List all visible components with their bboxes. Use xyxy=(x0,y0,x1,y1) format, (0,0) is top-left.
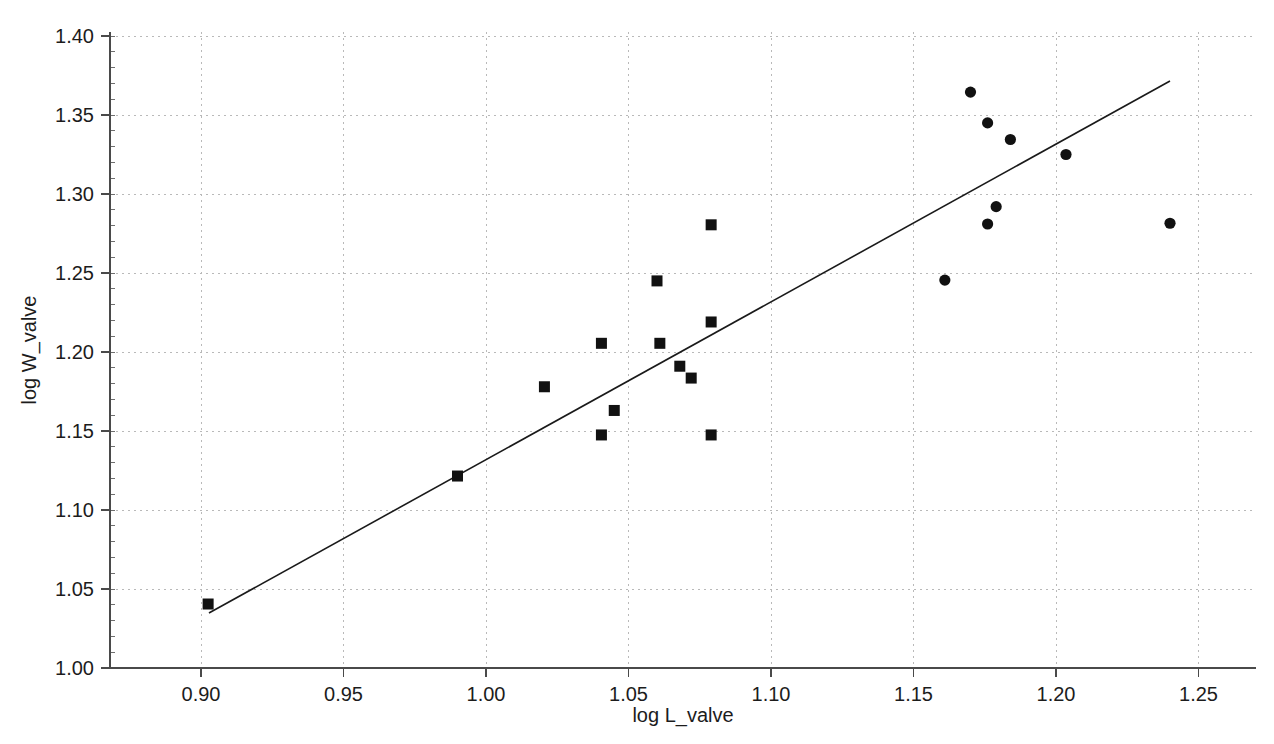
figure-background xyxy=(0,0,1274,744)
y-tick-label: 1.30 xyxy=(55,183,94,205)
x-tick-label: 1.25 xyxy=(1179,683,1218,705)
y-tick-label: 1.00 xyxy=(55,657,94,679)
x-tick-label: 1.15 xyxy=(894,683,933,705)
minor-tick-marks xyxy=(110,36,115,668)
data-point-square xyxy=(706,316,717,327)
data-point-circle xyxy=(1164,218,1175,229)
data-point-circle xyxy=(991,201,1002,212)
y-tick-label: 1.20 xyxy=(55,341,94,363)
data-point-square xyxy=(609,405,620,416)
plot-canvas: 1.001.051.101.151.201.251.301.351.40 0.9… xyxy=(0,0,1274,744)
data-point-circle xyxy=(965,86,976,97)
y-tick-label: 1.15 xyxy=(55,420,94,442)
x-tick-label: 0.95 xyxy=(324,683,363,705)
data-point-square xyxy=(706,429,717,440)
y-axis-title: log W_valve xyxy=(18,296,41,405)
data-point-square xyxy=(596,429,607,440)
data-point-square xyxy=(674,361,685,372)
data-point-square xyxy=(452,471,463,482)
x-tick-label: 0.90 xyxy=(182,683,221,705)
data-point-square xyxy=(203,599,214,610)
data-point-circle xyxy=(939,275,950,286)
data-point-square xyxy=(596,338,607,349)
data-point-square xyxy=(539,381,550,392)
y-tick-label: 1.10 xyxy=(55,499,94,521)
x-tick-label: 1.00 xyxy=(467,683,506,705)
y-tick-label: 1.25 xyxy=(55,262,94,284)
data-point-circle xyxy=(982,117,993,128)
data-point-square xyxy=(686,373,697,384)
y-tick-label: 1.05 xyxy=(55,578,94,600)
data-point-circle xyxy=(1005,134,1016,145)
data-point-circle xyxy=(982,218,993,229)
x-tick-label: 1.05 xyxy=(609,683,648,705)
y-tick-label: 1.35 xyxy=(55,104,94,126)
data-point-circle xyxy=(1060,149,1071,160)
data-point-square xyxy=(654,338,665,349)
scatter-plot-figure: 1.001.051.101.151.201.251.301.351.40 0.9… xyxy=(0,0,1274,744)
data-point-square xyxy=(652,275,663,286)
x-axis-title: log L_valve xyxy=(632,704,733,727)
x-tick-label: 1.20 xyxy=(1037,683,1076,705)
data-point-square xyxy=(706,219,717,230)
y-tick-label: 1.40 xyxy=(55,25,94,47)
x-tick-label: 1.10 xyxy=(752,683,791,705)
